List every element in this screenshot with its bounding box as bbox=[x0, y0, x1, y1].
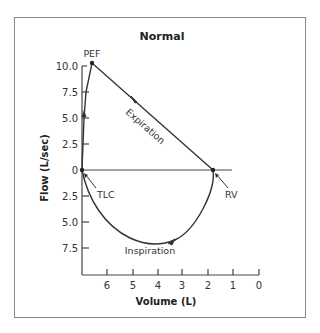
pef-point bbox=[90, 61, 94, 65]
svg-text:10.0: 10.0 bbox=[56, 61, 78, 72]
svg-text:3: 3 bbox=[179, 280, 185, 291]
chart-title: Normal bbox=[140, 30, 185, 43]
svg-text:6: 6 bbox=[104, 280, 110, 291]
pef-label: PEF bbox=[83, 48, 100, 59]
svg-text:5.0: 5.0 bbox=[62, 217, 78, 228]
rv-point bbox=[211, 168, 215, 172]
svg-text:0: 0 bbox=[72, 165, 78, 176]
svg-text:7.5: 7.5 bbox=[62, 243, 78, 254]
svg-text:2: 2 bbox=[205, 280, 211, 291]
rv-label: RV bbox=[225, 189, 238, 200]
tlc-point bbox=[80, 168, 84, 172]
inspiration-curve bbox=[82, 170, 213, 244]
expiration-curve bbox=[82, 63, 213, 170]
svg-text:4: 4 bbox=[155, 280, 161, 291]
tlc-label: TLC bbox=[96, 189, 115, 200]
svg-text:0: 0 bbox=[256, 280, 262, 291]
flow-volume-chart: Normal 10.0 7.5 5.0 2.5 0 2.5 5.0 7.5 6 … bbox=[0, 0, 320, 333]
svg-text:2.5: 2.5 bbox=[62, 139, 78, 150]
expiration-label: Expiration bbox=[124, 106, 168, 146]
y-axis-label: Flow (L/sec) bbox=[39, 134, 50, 202]
svg-text:7.5: 7.5 bbox=[62, 87, 78, 98]
svg-text:2.5: 2.5 bbox=[62, 191, 78, 202]
inspiration-label: Inspiration bbox=[125, 245, 175, 256]
svg-text:1: 1 bbox=[230, 280, 236, 291]
x-axis-label: Volume (L) bbox=[136, 296, 197, 307]
expiration-arrow-icon bbox=[131, 96, 137, 103]
svg-text:5: 5 bbox=[130, 280, 136, 291]
y-tick-labels: 10.0 7.5 5.0 2.5 0 2.5 5.0 7.5 bbox=[56, 61, 78, 254]
x-tick-labels: 6 5 4 3 2 1 0 bbox=[104, 280, 262, 291]
svg-text:5.0: 5.0 bbox=[62, 113, 78, 124]
